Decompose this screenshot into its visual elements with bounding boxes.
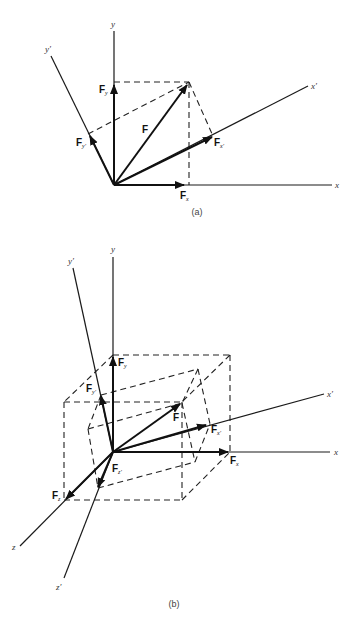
label-y-prime: y′ [67, 256, 75, 266]
label-f: F [173, 412, 179, 423]
label-z-prime: z′ [55, 582, 63, 592]
label-fy: Fy [118, 357, 127, 369]
box-edge [88, 403, 182, 429]
vector-f [113, 404, 180, 452]
label-fz-prime: Fz′ [112, 463, 122, 475]
box-edge [195, 424, 210, 462]
box-edge [198, 369, 210, 424]
vector-fx-prime [113, 425, 206, 452]
label-fx-prime: Fx′ [214, 137, 225, 149]
vector-fx-prime [114, 137, 212, 185]
label-x: x [334, 180, 339, 190]
box-edge [182, 355, 230, 402]
label-f: F [142, 124, 148, 135]
box-edge [182, 452, 230, 500]
label-fx: Fx [230, 455, 239, 467]
label-fx: Fx [180, 190, 189, 202]
box-edge [64, 355, 113, 402]
vector-components-figure: x y x′ y′ F Fx Fy Fx′ Fy′ (a) [0, 0, 353, 626]
label-x-prime: x′ [310, 81, 318, 91]
vector-fz [66, 452, 113, 499]
label-fz: Fz [52, 490, 61, 502]
caption-a: (a) [192, 207, 203, 217]
vector-fy-prime [101, 396, 113, 452]
box-edge [88, 429, 98, 488]
label-fx-prime: Fx′ [211, 424, 222, 436]
label-y-prime: y′ [44, 44, 52, 54]
box-edge [101, 369, 198, 395]
label-y: y [110, 244, 115, 254]
box-edge [88, 395, 101, 429]
vector-fz-prime [98, 452, 113, 487]
label-y: y [110, 19, 115, 29]
caption-b: (b) [169, 599, 180, 609]
label-z: z [11, 542, 16, 552]
label-fy-prime: Fy′ [86, 383, 97, 395]
vector-fy-prime [90, 136, 114, 185]
label-fy-prime: Fy′ [76, 137, 87, 149]
vector-f [114, 85, 187, 185]
dashed-f-to-fx-prime [189, 82, 213, 136]
box-edge [182, 369, 198, 403]
panel-a: x y x′ y′ F Fx Fy Fx′ Fy′ (a) [44, 19, 339, 217]
panel-b: x y z x′ y′ z′ F Fx Fy Fz Fx′ Fy′ Fz′ (b… [11, 244, 338, 609]
label-x-prime: x′ [326, 389, 334, 399]
label-fy: Fy [99, 84, 108, 96]
label-x: x [333, 447, 338, 457]
